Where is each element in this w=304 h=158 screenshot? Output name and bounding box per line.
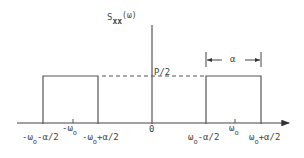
origin-label: 0	[149, 124, 154, 134]
y-axis-label: Sxx(ω)	[107, 11, 137, 26]
tick-label-pos-high-edge: ωo+α/2	[249, 132, 280, 146]
spectral-density-diagram: α Sxx(ω) P/2 0 -ωo-α/2 -ωo -ωo+α/2 ωo-α/…	[0, 0, 304, 158]
negative-band-rect	[43, 76, 98, 124]
level-label: P/2	[154, 67, 170, 77]
alpha-label: α	[230, 54, 236, 64]
tick-label-pos-center: ωo	[229, 123, 239, 137]
tick-label-neg-center: -ωo	[62, 123, 77, 137]
tick-label-neg-high-edge: -ωo+α/2	[82, 132, 119, 146]
positive-band-rect	[206, 76, 261, 124]
tick-label-pos-low-edge: ωo-α/2	[188, 132, 219, 146]
tick-label-neg-low-edge: -ωo-α/2	[22, 132, 59, 146]
